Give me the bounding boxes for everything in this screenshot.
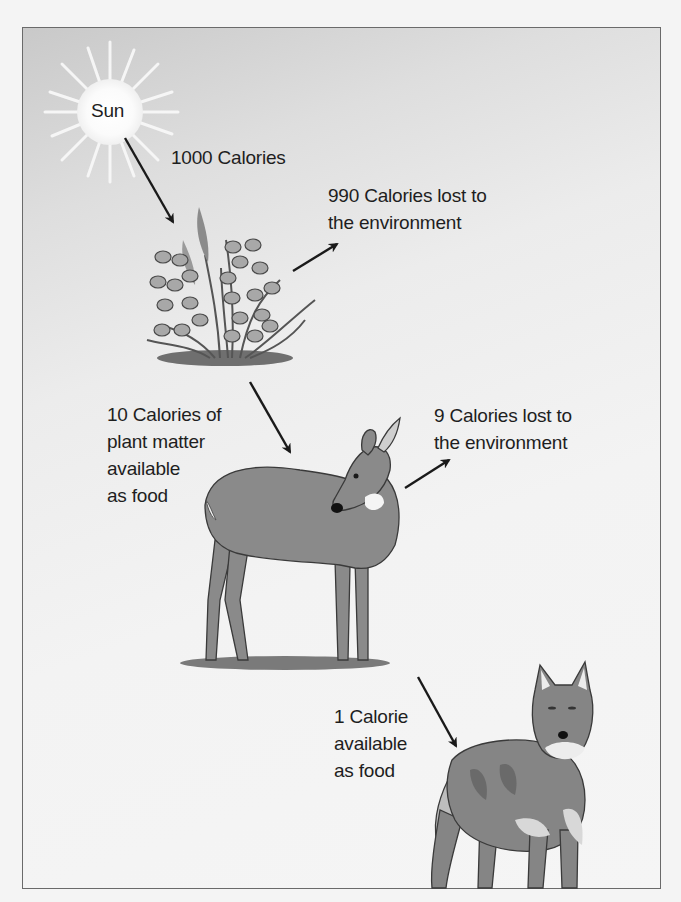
deer-available-line2: available [334, 731, 407, 757]
plant-available-line2: plant matter [107, 429, 205, 455]
deer-lost-line2: the environment [434, 430, 567, 456]
plant-lost-line2: the environment [328, 210, 461, 236]
deer-lost-line1: 9 Calories lost to [434, 403, 572, 429]
plant-lost-line1: 990 Calories lost to [328, 183, 487, 209]
sun-label: Sun [91, 98, 124, 124]
deer-available-line1: 1 Calorie [334, 704, 408, 730]
sun-energy-label: 1000 Calories [171, 145, 286, 171]
deer-icon [180, 418, 400, 670]
plant-available-line4: as food [107, 483, 168, 509]
deer-available-line3: as food [334, 758, 395, 784]
plant-available-line3: available [107, 456, 180, 482]
plants-icon [147, 207, 315, 366]
arrow-plants-to-deer [250, 382, 290, 452]
arrow-deer-to-wolf [418, 677, 456, 746]
arrow-deer-lost [405, 460, 449, 488]
plant-available-line1: 10 Calories of [107, 402, 221, 428]
arrow-plants-lost [293, 244, 337, 271]
wolf-icon [432, 662, 593, 888]
